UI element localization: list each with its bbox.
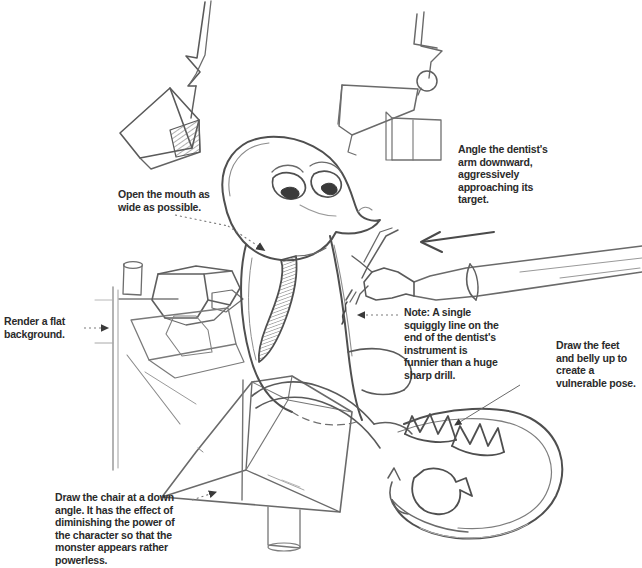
- monster-belly: [252, 382, 412, 448]
- background-wall: [95, 287, 118, 470]
- annotation-angle-arm: Angle the dentist's arm downward, aggres…: [458, 143, 554, 206]
- annotation-render-background: Render a flat background.: [4, 315, 82, 340]
- annotation-open-mouth: Open the mouth as wide as possible.: [118, 188, 226, 213]
- sketch-canvas: Open the mouth as wide as possible. Angl…: [0, 0, 642, 568]
- storyboard-illustration: [0, 0, 642, 568]
- hanging-lamp-icon: [120, 1, 211, 169]
- annotation-instrument-note: Note: A single squiggly line on the end …: [404, 306, 502, 382]
- side-table-cup: [119, 262, 178, 299]
- annotation-feet-belly: Draw the feet and belly up to create a v…: [556, 339, 640, 389]
- lamp-arm-joint-icon: [338, 12, 442, 160]
- monster-mouth: [259, 248, 326, 362]
- annotation-chair-angle: Draw the chair at a down angle. It has t…: [55, 491, 190, 567]
- monster-eyes: [273, 171, 342, 199]
